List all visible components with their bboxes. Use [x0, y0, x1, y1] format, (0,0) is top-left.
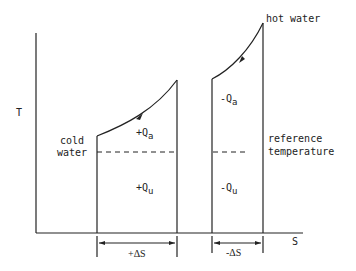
reference-label: reference — [268, 133, 322, 144]
hot-water-label: hot water — [266, 13, 320, 24]
plus-ds-label: +ΔS — [128, 248, 146, 259]
s-axis-label: S — [292, 236, 298, 247]
water-label: water — [57, 147, 87, 158]
plus-qu-label: +Qu — [136, 182, 153, 196]
cold-label: cold — [60, 135, 84, 146]
cooling-curve — [212, 23, 263, 79]
minus-ds-label: -ΔS — [226, 247, 241, 258]
temperature-label: temperature — [268, 146, 334, 157]
minus-qu-label: -Qu — [220, 182, 237, 196]
plus-qa-label: +Qa — [136, 127, 153, 141]
minus-qa-label: -Qa — [220, 93, 237, 107]
ts-diagram: T S hot water cold water reference tempe… — [0, 0, 356, 271]
t-axis-label: T — [16, 107, 22, 118]
